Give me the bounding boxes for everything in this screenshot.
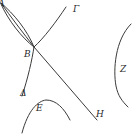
label-gamma: Γ [72,4,80,14]
label-b: B [23,49,31,59]
geometric-diagram: A Γ B Δ E Z H [0,0,136,137]
label-z: Z [119,64,127,74]
line-b-h [34,47,97,120]
label-delta: Δ [19,88,27,98]
label-e: E [35,103,43,113]
label-h: H [95,109,104,119]
curve-b-gamma [34,7,66,47]
label-a: A [0,0,5,8]
curve-a-b-middle [1,3,34,47]
curve-e [22,100,70,133]
